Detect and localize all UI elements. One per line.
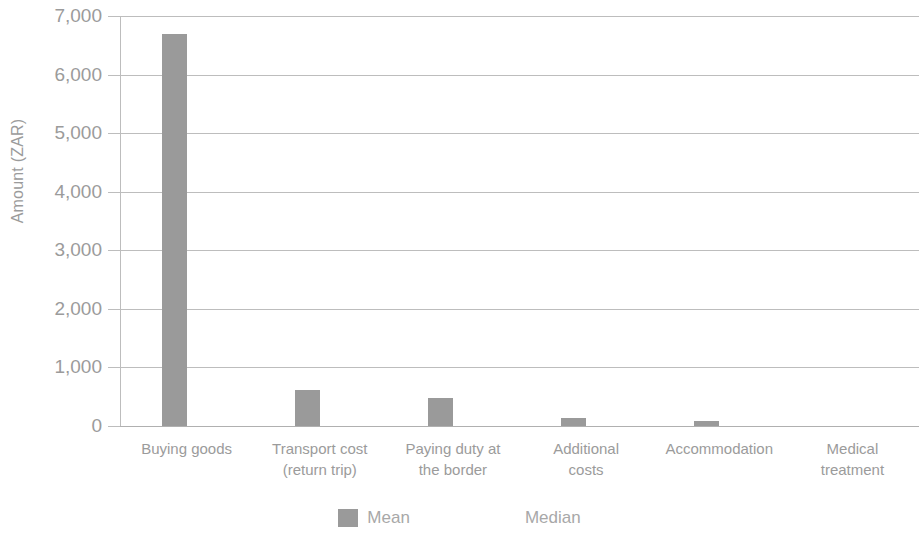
bar-group[interactable] [120, 16, 253, 426]
bar-group[interactable] [653, 16, 786, 426]
legend: Mean Median [0, 508, 919, 528]
x-axis-label: Accommodation [653, 438, 786, 459]
y-axis-tick [108, 309, 120, 310]
plot-area: 7,0006,0005,0004,0003,0002,0001,0000 [120, 16, 919, 426]
y-axis-tick [108, 75, 120, 76]
bar-group[interactable] [520, 16, 653, 426]
y-axis-tick [108, 133, 120, 134]
bar-mean[interactable] [162, 34, 187, 426]
legend-item-mean[interactable]: Mean [338, 508, 410, 528]
bar-group[interactable] [253, 16, 386, 426]
bar-chart: Amount (ZAR) 7,0006,0005,0004,0003,0002,… [0, 0, 919, 535]
y-axis-tick [108, 16, 120, 17]
bar-mean[interactable] [694, 421, 719, 426]
y-axis-tick-label: 2,000 [54, 298, 102, 320]
y-axis-tick-label: 0 [91, 415, 102, 437]
y-axis-tick-label: 7,000 [54, 5, 102, 27]
x-axis-label: Medical treatment [786, 438, 919, 480]
x-axis-label: Additional costs [520, 438, 653, 480]
y-axis-tick [108, 192, 120, 193]
x-axis-label: Buying goods [120, 438, 253, 459]
x-axis-label: Paying duty at the border [386, 438, 519, 480]
y-axis-tick-label: 6,000 [54, 64, 102, 86]
y-axis-tick [108, 426, 120, 427]
y-axis-tick-label: 4,000 [54, 181, 102, 203]
y-axis-title: Amount (ZAR) [9, 81, 27, 261]
y-axis-tick-label: 1,000 [54, 356, 102, 378]
legend-label-median: Median [525, 508, 581, 528]
y-axis-tick [108, 367, 120, 368]
x-axis-label: Transport cost (return trip) [253, 438, 386, 480]
legend-item-median[interactable]: Median [496, 508, 581, 528]
bar-group[interactable] [386, 16, 519, 426]
y-axis-tick-label: 5,000 [54, 122, 102, 144]
bar-mean[interactable] [561, 418, 586, 426]
gridline [120, 426, 919, 427]
legend-label-mean: Mean [367, 508, 410, 528]
bar-mean[interactable] [295, 390, 320, 426]
y-axis-tick-label: 3,000 [54, 239, 102, 261]
y-axis-tick [108, 250, 120, 251]
bar-mean[interactable] [428, 398, 453, 426]
bar-group[interactable] [786, 16, 919, 426]
legend-swatch-mean-icon [338, 509, 358, 527]
legend-swatch-median-icon [496, 509, 516, 527]
